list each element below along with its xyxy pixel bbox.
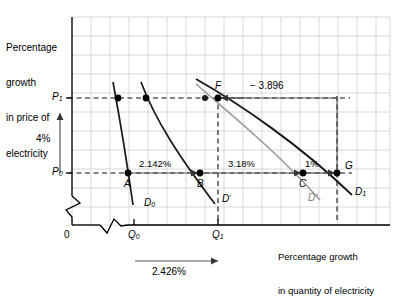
point-label-B: B xyxy=(197,178,204,190)
curve-label-D1: D1 xyxy=(355,186,366,198)
y-tick-label-P0: P0 xyxy=(52,166,63,178)
x-axis-title: Percentage growth in quantity of electri… xyxy=(278,229,374,300)
point-p1-D0 xyxy=(115,95,122,102)
x-tick-label-Q0: Q0 xyxy=(128,229,140,241)
measure-label-1pct: 1% xyxy=(305,158,319,169)
measure-label-2426pct: 2.426% xyxy=(152,266,186,278)
y-tick-label-P1: P1 xyxy=(52,91,63,103)
point-label-G: G xyxy=(345,160,353,172)
measure-label-4pct: 4% xyxy=(36,133,50,145)
point-F xyxy=(215,95,222,102)
measure-label-elasticity-3896: − 3.896 xyxy=(250,80,284,92)
point-label-A: A xyxy=(124,178,131,190)
x-tick-label-Q1: Q1 xyxy=(212,229,224,241)
origin-label: 0 xyxy=(64,229,70,241)
point-label-C: C xyxy=(299,178,306,190)
point-C xyxy=(300,170,307,177)
curve-label-D0: D0 xyxy=(144,197,155,209)
measure-label-318pct: 3.18% xyxy=(228,158,255,169)
measure-label-2142pct: 2.142% xyxy=(139,158,171,169)
point-B xyxy=(197,170,204,177)
point-p1-Dpp xyxy=(202,95,208,101)
curve-label-Dprime: D′ xyxy=(222,193,231,205)
y-axis xyxy=(66,17,80,225)
curve-label-Dprimeprime: D″ xyxy=(308,192,318,204)
point-A xyxy=(125,170,132,177)
point-p1-Dprime xyxy=(143,95,150,102)
y-axis-title: Percentage growth in price of electricit… xyxy=(6,18,57,183)
point-label-F: F xyxy=(215,80,221,92)
point-G xyxy=(334,170,341,177)
